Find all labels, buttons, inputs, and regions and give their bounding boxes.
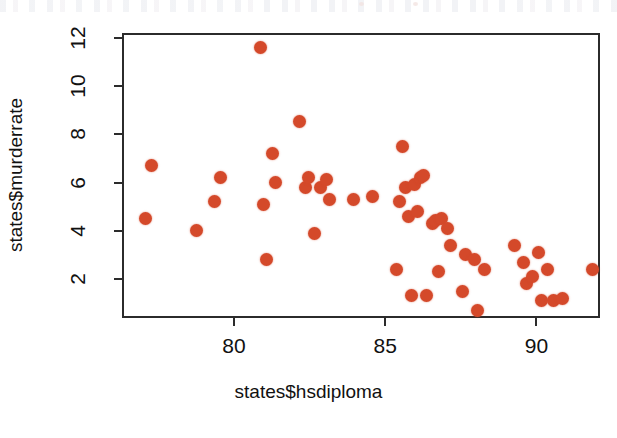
data-point [396,140,409,153]
x-axis-label: states$hsdiploma [0,381,617,403]
data-point [257,198,270,211]
y-axis-tick [114,37,122,39]
y-axis-tick [114,230,122,232]
x-axis-tick [384,318,386,326]
plot-frame [122,33,600,318]
data-point [432,265,445,278]
data-point [190,224,203,237]
data-point [526,270,539,283]
data-point [471,304,484,317]
data-point [323,193,336,206]
data-point [532,246,545,259]
data-point [145,159,158,172]
data-point [441,222,454,235]
scatter-plot-figure: 808590 24681012 states$hsdiploma states$… [0,0,617,438]
data-point [456,285,469,298]
data-point [508,239,521,252]
y-axis-tick [114,278,122,280]
y-axis-tick-label: 12 [66,26,90,49]
data-point [556,292,569,305]
data-point [390,263,403,276]
data-point [293,115,306,128]
data-point [269,176,282,189]
data-point [420,289,433,302]
data-point [541,263,554,276]
y-axis-tick [114,85,122,87]
y-axis-tick [114,133,122,135]
data-points-layer [124,35,598,316]
y-axis-tick-label: 10 [66,74,90,97]
y-axis-tick-label: 4 [66,225,90,237]
data-point [478,263,491,276]
data-point [208,195,221,208]
data-point [139,212,152,225]
y-axis-tick-label: 8 [66,129,90,141]
data-point [417,169,430,182]
data-point [405,289,418,302]
data-point [586,263,599,276]
x-axis-tick-label: 90 [525,334,548,358]
data-point [302,171,315,184]
x-axis-tick-label: 85 [374,334,397,358]
y-axis-label: states$murderrate [5,98,27,252]
data-point [347,193,360,206]
data-point [266,147,279,160]
data-point [366,190,379,203]
y-axis-tick-label: 2 [66,274,90,286]
data-point [260,253,273,266]
x-axis-tick [535,318,537,326]
data-point [393,195,406,208]
x-axis-tick-label: 80 [222,334,245,358]
data-point [535,294,548,307]
data-point [411,205,424,218]
data-point [320,173,333,186]
data-point [214,171,227,184]
x-axis-tick [233,318,235,326]
y-axis-tick-label: 6 [66,177,90,189]
data-point [444,239,457,252]
data-point [308,227,321,240]
data-point [517,256,530,269]
data-point [254,41,267,54]
y-axis-tick [114,182,122,184]
